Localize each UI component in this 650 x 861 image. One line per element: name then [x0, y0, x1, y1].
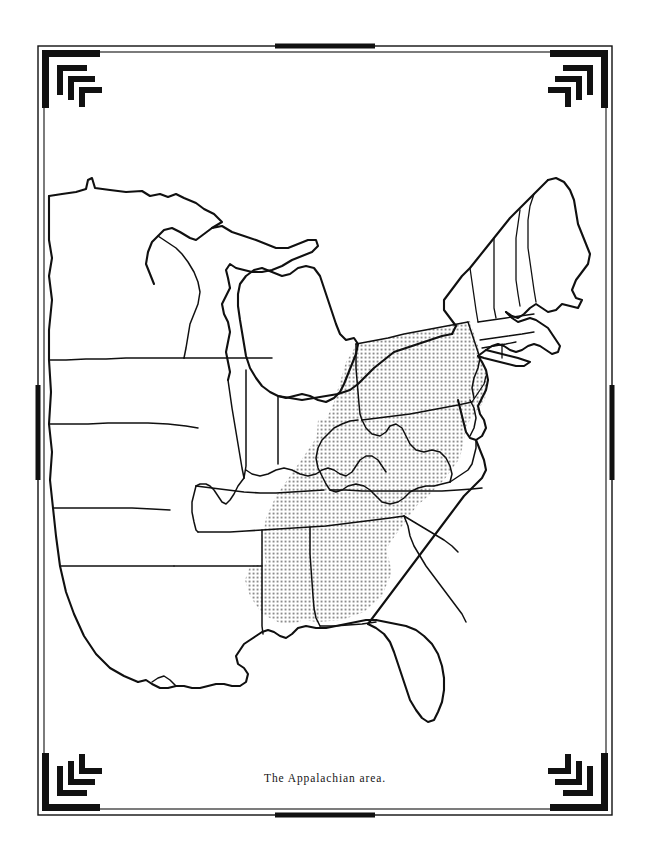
us-eastern-map	[0, 0, 650, 861]
appalachian-shaded-region	[245, 321, 487, 624]
figure-page: The Appalachian area.	[0, 0, 650, 861]
figure-caption: The Appalachian area.	[0, 772, 650, 784]
